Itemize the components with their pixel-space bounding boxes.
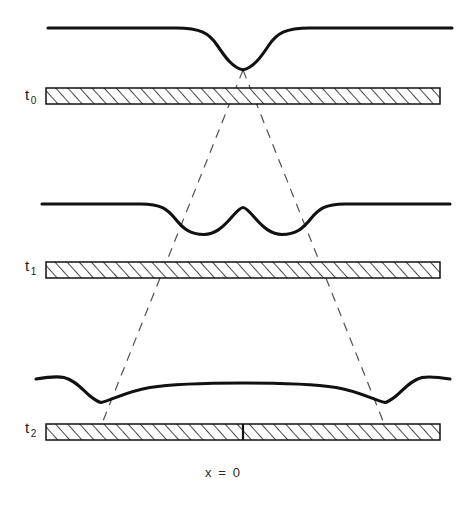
dashed-characteristic-left	[101, 70, 243, 426]
dashed-characteristic-right	[243, 70, 385, 426]
time-label-t1-sub: 1	[30, 266, 37, 277]
waveform-t0	[48, 28, 452, 70]
waveform-t1	[42, 204, 450, 235]
time-label-t0-main: t	[25, 86, 30, 103]
dashed-characteristic-lines	[101, 70, 385, 426]
medium-bar-t2	[46, 424, 440, 440]
time-label-t2-sub: 2	[30, 428, 37, 439]
figure-canvas	[0, 0, 472, 507]
row-t2	[36, 377, 450, 440]
wave-splitting-figure: t0 t1 t2 x = 0	[0, 0, 472, 507]
time-label-t2-main: t	[25, 419, 30, 436]
medium-bar-t0	[46, 88, 440, 104]
time-label-t0: t0	[25, 86, 37, 106]
time-label-t0-sub: 0	[30, 95, 37, 106]
time-label-t1: t1	[25, 257, 37, 277]
axis-origin-label: x = 0	[205, 465, 242, 480]
time-label-t1-main: t	[25, 257, 30, 274]
waveform-t2	[36, 377, 450, 403]
time-label-t2: t2	[25, 419, 37, 439]
medium-bar-t1	[46, 262, 440, 278]
row-t1	[42, 204, 450, 278]
row-t0	[46, 28, 452, 104]
